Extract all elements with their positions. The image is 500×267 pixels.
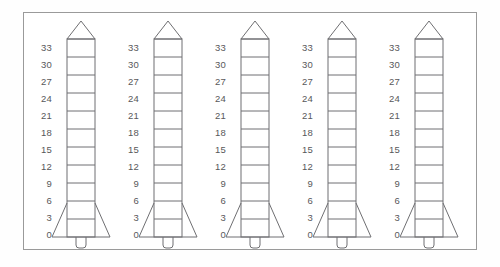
scale-tick: 33	[26, 43, 52, 53]
nose-cone-icon	[241, 21, 269, 39]
scale-tick: 3	[374, 213, 400, 223]
nose-cone-icon	[67, 21, 95, 39]
fin-triangle-icon	[139, 203, 197, 237]
nozzle-icon	[163, 237, 173, 248]
nozzle-icon	[424, 237, 434, 248]
diagram-border-frame: 33 30 27 24 21 18 15 12 9 6 3 0	[23, 12, 477, 250]
scale-tick: 15	[113, 145, 139, 155]
scale-tick: 15	[374, 145, 400, 155]
scale-labels-5: 33 30 27 24 21 18 15 12 9 6 3 0	[374, 43, 400, 243]
scale-tick: 21	[200, 111, 226, 121]
scale-tick: 33	[374, 43, 400, 53]
nose-cone-icon	[154, 21, 182, 39]
scale-tick: 0	[200, 230, 226, 240]
nose-cone-icon	[415, 21, 443, 39]
scale-tick: 21	[113, 111, 139, 121]
scale-tick: 0	[374, 230, 400, 240]
body-tube-icon	[415, 39, 443, 237]
scale-tick: 6	[26, 196, 52, 206]
scale-tick: 18	[374, 128, 400, 138]
scale-tick: 27	[374, 77, 400, 87]
scale-tick: 27	[26, 77, 52, 87]
nose-cone-icon	[328, 21, 356, 39]
scale-tick: 9	[287, 179, 313, 189]
scale-tick: 33	[287, 43, 313, 53]
diagram-canvas: 33 30 27 24 21 18 15 12 9 6 3 0	[0, 0, 500, 267]
rocket-drawing-2	[137, 13, 199, 251]
scale-tick: 12	[26, 162, 52, 172]
rocket-unit-4: 33 30 27 24 21 18 15 12 9 6 3 0	[287, 13, 374, 249]
scale-tick: 12	[113, 162, 139, 172]
scale-tick: 21	[374, 111, 400, 121]
scale-tick: 6	[113, 196, 139, 206]
scale-tick: 6	[374, 196, 400, 206]
rocket-drawing-1	[50, 13, 112, 251]
scale-tick: 3	[113, 213, 139, 223]
scale-tick: 30	[200, 60, 226, 70]
rocket-unit-1: 33 30 27 24 21 18 15 12 9 6 3 0	[26, 13, 113, 249]
scale-tick: 18	[113, 128, 139, 138]
scale-tick: 9	[113, 179, 139, 189]
scale-tick: 6	[200, 196, 226, 206]
scale-tick: 12	[287, 162, 313, 172]
rocket-unit-5: 33 30 27 24 21 18 15 12 9 6 3 0	[374, 13, 461, 249]
scale-tick: 0	[287, 230, 313, 240]
body-tube-icon	[241, 39, 269, 237]
scale-tick: 24	[26, 94, 52, 104]
scale-tick: 6	[287, 196, 313, 206]
scale-tick: 9	[26, 179, 52, 189]
scale-tick: 33	[200, 43, 226, 53]
scale-tick: 30	[374, 60, 400, 70]
scale-tick: 15	[200, 145, 226, 155]
scale-tick: 24	[287, 94, 313, 104]
rocket-row: 33 30 27 24 21 18 15 12 9 6 3 0	[24, 13, 476, 249]
scale-tick: 27	[287, 77, 313, 87]
scale-tick: 27	[113, 77, 139, 87]
scale-tick: 30	[113, 60, 139, 70]
body-tube-icon	[67, 39, 95, 237]
scale-tick: 24	[374, 94, 400, 104]
scale-tick: 30	[287, 60, 313, 70]
scale-tick: 12	[374, 162, 400, 172]
body-tube-icon	[328, 39, 356, 237]
rocket-unit-3: 33 30 27 24 21 18 15 12 9 6 3 0	[200, 13, 287, 249]
scale-tick: 18	[287, 128, 313, 138]
nozzle-icon	[76, 237, 86, 248]
nozzle-icon	[337, 237, 347, 248]
scale-tick: 33	[113, 43, 139, 53]
scale-tick: 9	[374, 179, 400, 189]
scale-tick: 3	[287, 213, 313, 223]
fin-triangle-icon	[226, 203, 284, 237]
scale-tick: 27	[200, 77, 226, 87]
scale-tick: 18	[26, 128, 52, 138]
scale-tick: 21	[26, 111, 52, 121]
scale-tick: 30	[26, 60, 52, 70]
scale-tick: 3	[200, 213, 226, 223]
scale-tick: 0	[26, 230, 52, 240]
rocket-drawing-3	[224, 13, 286, 251]
rocket-unit-2: 33 30 27 24 21 18 15 12 9 6 3 0	[113, 13, 200, 249]
fin-triangle-icon	[52, 203, 110, 237]
scale-tick: 3	[26, 213, 52, 223]
fin-triangle-icon	[400, 203, 458, 237]
scale-tick: 9	[200, 179, 226, 189]
scale-labels-4: 33 30 27 24 21 18 15 12 9 6 3 0	[287, 43, 313, 243]
scale-tick: 15	[287, 145, 313, 155]
scale-tick: 18	[200, 128, 226, 138]
body-tube-icon	[154, 39, 182, 237]
scale-labels-3: 33 30 27 24 21 18 15 12 9 6 3 0	[200, 43, 226, 243]
scale-labels-2: 33 30 27 24 21 18 15 12 9 6 3 0	[113, 43, 139, 243]
scale-tick: 12	[200, 162, 226, 172]
scale-tick: 0	[113, 230, 139, 240]
nozzle-icon	[250, 237, 260, 248]
scale-tick: 24	[200, 94, 226, 104]
fin-triangle-icon	[313, 203, 371, 237]
scale-tick: 24	[113, 94, 139, 104]
scale-tick: 15	[26, 145, 52, 155]
figure-title: Five rocket diagrams with vertical measu…	[0, 0, 1, 1]
rocket-drawing-5	[398, 13, 460, 251]
scale-tick: 21	[287, 111, 313, 121]
scale-labels-1: 33 30 27 24 21 18 15 12 9 6 3 0	[26, 43, 52, 243]
rocket-drawing-4	[311, 13, 373, 251]
